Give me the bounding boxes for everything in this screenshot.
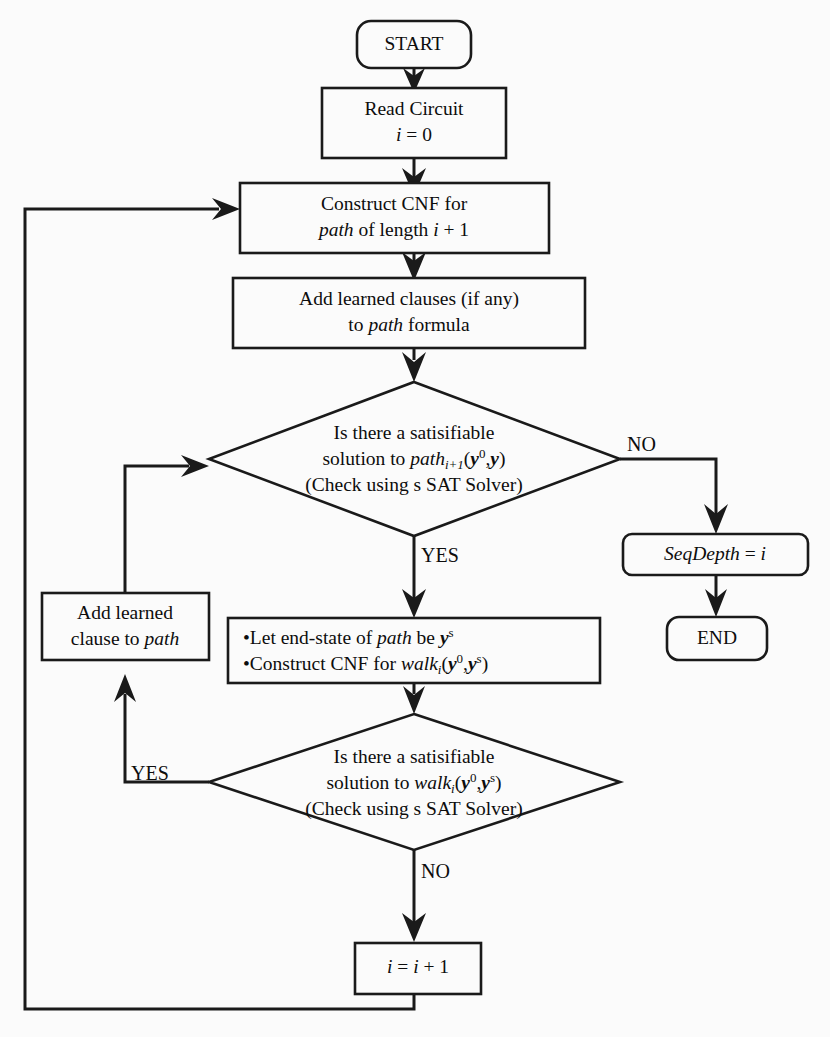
increment-label: i = i + 1 [387,956,449,977]
seq-depth-label: SeqDepth = i [664,543,766,564]
edge-label-walk-no: NO [421,860,450,882]
node-construct-cnf-path[interactable]: Construct CNF for path of length i + 1 [240,183,549,253]
edge-label-walk-yes: YES [131,762,169,784]
decision-walk-ys: y [479,772,490,793]
start-label: START [384,33,443,54]
increment-plus-one: + 1 [419,956,450,977]
node-seq-depth[interactable]: SeqDepth = i [623,534,808,575]
flowchart-page: START Read Circuit i = 0 Construct CNF f… [0,0,830,1037]
decision-walk-y0: y [459,772,470,793]
seq-depth-name: SeqDepth [664,543,740,564]
node-let-end-state[interactable]: •Let end-state of path be ys •Construct … [228,618,600,683]
bullet2-ys: y [466,653,477,674]
decision-path-line2: solution to pathi+1(y0,y) [322,446,505,472]
read-circuit-line1: Read Circuit [364,98,464,119]
bullet2-close: ) [482,653,489,675]
construct-cnf-line2: path of length i + 1 [317,219,469,240]
add-learned-clause-path: path [142,628,179,649]
increment-equals: = [392,956,413,977]
decision-walk-solution-to: solution to [327,772,415,793]
add-clauses-to: to [348,314,368,335]
seq-depth-i: i [761,543,766,564]
edge-add-learned-clause-to-decision-path [125,455,209,593]
edge-seq-depth-to-end [705,575,727,617]
node-end[interactable]: END [667,617,767,660]
construct-cnf-path-word: path [317,219,354,240]
bullet1-be: be [412,627,440,648]
decision-path-solution-to: solution to [322,448,410,469]
decision-path-line1: Is there a satisifiable [334,422,495,443]
flowchart-canvas: START Read Circuit i = 0 Construct CNF f… [0,0,830,1037]
node-read-circuit[interactable]: Read Circuit i = 0 [322,88,506,158]
node-decision-walk-sat[interactable]: Is there a satisifiable solution to walk… [209,714,620,850]
add-learned-clause-line2: clause to path [71,628,179,649]
node-add-learned-clauses[interactable]: Add learned clauses (if any) to path for… [233,278,585,348]
end-label: END [697,627,737,648]
edge-label-path-yes: YES [421,544,459,566]
edge-let-end-state-to-decision-walk [403,683,425,714]
edge-label-path-no: NO [627,433,656,455]
add-learned-clause-line1: Add learned [77,602,173,623]
decision-path-y: y [488,448,499,469]
let-end-state-bullet1: •Let end-state of path be ys [243,625,454,648]
let-end-state-bullet2: •Construct CNF for walki(y0,ys) [243,651,488,677]
add-clauses-line1: Add learned clauses (if any) [299,288,519,310]
construct-cnf-oflength: of length [354,219,434,240]
decision-path-line3: (Check using s SAT Solver) [305,474,522,496]
decision-walk-line1: Is there a satisifiable [334,746,495,767]
decision-walk-line3: (Check using s SAT Solver) [305,798,522,820]
read-circuit-rest: = 0 [401,124,432,145]
bullet1-y: y [438,627,449,648]
bullet1-text: •Let end-state of [243,627,377,648]
decision-walk-close: ) [495,772,502,794]
bullet1-path: path [375,627,412,648]
decision-path-word: path [408,448,445,469]
decision-path-close: ) [499,448,506,470]
node-start[interactable]: START [357,21,471,68]
decision-path-subscript: i+1 [445,457,464,472]
bullet1-y-sup: s [449,625,454,640]
node-decision-path-sat[interactable]: Is there a satisifiable solution to path… [209,382,620,536]
read-circuit-line2: i = 0 [396,124,432,145]
bullet2-text: •Construct CNF for [243,653,401,674]
add-learned-clause-to: clause to [71,628,145,649]
add-clauses-formula: formula [403,314,470,335]
add-clauses-path-word: path [366,314,403,335]
node-increment-i[interactable]: i = i + 1 [355,943,481,994]
seq-depth-equals: = [740,543,761,564]
decision-walk-word: walk [414,772,451,793]
decision-path-y0: y [468,448,479,469]
construct-cnf-line1: Construct CNF for [321,193,468,214]
edge-decision-path-no [620,459,728,534]
construct-cnf-plus1: + 1 [439,219,470,240]
edge-add-clauses-to-decision-path [402,348,426,382]
bullet2-y0: y [446,653,457,674]
edge-construct-cnf-to-add-clauses [402,252,426,281]
add-clauses-line2: to path formula [348,314,470,335]
bullet2-walk: walk [401,653,438,674]
node-add-learned-clause[interactable]: Add learned clause to path [42,593,209,660]
